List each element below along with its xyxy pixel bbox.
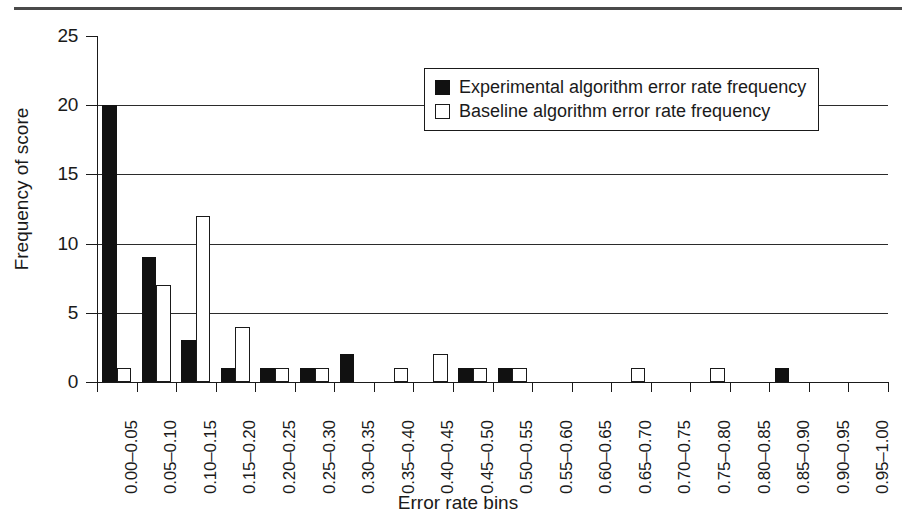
y-axis-tick-mark [86,313,97,314]
legend-label-experimental: Experimental algorithm error rate freque… [459,78,806,96]
legend-swatch-open-square-icon [435,104,450,119]
legend-item-experimental: Experimental algorithm error rate freque… [435,75,806,99]
y-axis-tick-label: 0 [0,372,78,391]
x-axis-tick-label: 0.10–0.15 [202,384,219,494]
x-axis-tick-label: 0.85–0.90 [795,384,812,494]
x-axis-tick-label: 0.60–0.65 [597,384,614,494]
x-axis-tick-labels: 0.00–0.050.05–0.100.10–0.150.15–0.200.20… [97,388,888,498]
bar-experimental [142,257,157,382]
bar-baseline [156,285,171,382]
legend-item-baseline: Baseline algorithm error rate frequency [435,99,806,123]
bar-experimental [102,105,117,382]
figure-container: 0510152025 Frequency of score 0.00–0.050… [0,0,916,527]
x-axis-tick-label: 0.80–0.85 [756,384,773,494]
bar-baseline [394,368,409,382]
x-axis-tick-label: 0.95–1.00 [874,384,891,494]
chart-legend: Experimental algorithm error rate freque… [424,68,819,131]
y-axis-title: Frequency of score [11,39,33,339]
bar-baseline [710,368,725,382]
x-axis-tick-label: 0.50–0.55 [518,384,535,494]
y-axis-tick-mark [86,244,97,245]
bar-baseline [117,368,132,382]
x-axis-tick-label: 0.45–0.50 [479,384,496,494]
y-axis-tick-mark [86,382,97,383]
x-axis-tick-label: 0.90–0.95 [835,384,852,494]
bar-experimental [775,368,790,382]
x-axis-tick-label: 0.35–0.40 [400,384,417,494]
x-axis-tick-label: 0.55–0.60 [558,384,575,494]
x-axis-title: Error rate bins [0,492,916,514]
x-axis-tick-label: 0.75–0.80 [716,384,733,494]
x-axis-tick-label: 0.25–0.30 [321,384,338,494]
x-axis-tick-label: 0.30–0.35 [360,384,377,494]
bar-experimental [340,354,355,382]
x-axis-tick-label: 0.00–0.05 [123,384,140,494]
bar-experimental [260,368,275,382]
bar-baseline [473,368,488,382]
bar-experimental [181,340,196,382]
bar-baseline [512,368,527,382]
bar-experimental [458,368,473,382]
y-axis-tick-mark [86,105,97,106]
x-axis-tick-label: 0.40–0.45 [439,384,456,494]
bar-baseline [275,368,290,382]
bar-baseline [315,368,330,382]
bar-baseline [196,216,211,382]
legend-label-baseline: Baseline algorithm error rate frequency [459,102,770,120]
x-axis-tick-label: 0.70–0.75 [676,384,693,494]
legend-swatch-filled-square-icon [435,80,450,95]
y-axis-tick-mark [86,174,97,175]
bar-baseline [235,327,250,382]
bar-baseline [433,354,448,382]
x-axis-tick-label: 0.20–0.25 [281,384,298,494]
x-axis-tick-label: 0.15–0.20 [241,384,258,494]
y-axis-tick-mark [86,36,97,37]
x-axis-tick-label: 0.65–0.70 [637,384,654,494]
bar-experimental [221,368,236,382]
bar-experimental [498,368,513,382]
bar-baseline [631,368,646,382]
bar-experimental [300,368,315,382]
top-horizontal-rule [14,7,902,10]
y-axis-line [97,36,98,383]
x-axis-tick-label: 0.05–0.10 [162,384,179,494]
